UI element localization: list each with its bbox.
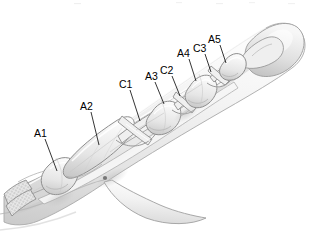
pulley-label-a5: A5 [208, 34, 221, 45]
pulley-label-c2: C2 [160, 65, 173, 76]
pulley-label-a3: A3 [145, 71, 158, 82]
pulley-label-a4: A4 [177, 48, 190, 59]
pulley-label-a1: A1 [34, 128, 47, 139]
pulley-label-c3: C3 [193, 43, 206, 54]
scan-artifact-marks [74, 2, 295, 4]
pulley-label-c1: C1 [119, 79, 132, 90]
anatomy-figure: A1A2C1A3C2A4C3A5 [0, 0, 314, 240]
pulley-label-a2: A2 [80, 101, 93, 112]
finger-pulley-illustration [0, 0, 314, 240]
